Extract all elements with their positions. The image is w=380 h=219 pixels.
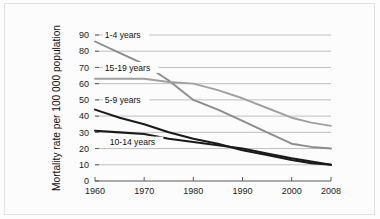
x-tick-label-1990: 1990 [232, 186, 252, 196]
x-tick-label-2008: 2008 [321, 186, 341, 196]
y-tick-label-50: 50 [79, 95, 89, 105]
y-tick-label-20: 20 [79, 144, 89, 154]
chart-figure: 1-4 years15-19 years5-9 years10-14 years… [0, 0, 380, 219]
series-label-5-9-years: 5-9 years [105, 95, 141, 105]
y-tick-label-90: 90 [79, 30, 89, 40]
series-line-10-14-years [95, 131, 331, 165]
y-axis-title: Mortality rate per 100 000 population [51, 25, 62, 191]
series-label-10-14-years: 10-14 years [110, 137, 155, 147]
y-tick-label-80: 80 [79, 46, 89, 56]
series-annotations: 1-4 years15-19 years5-9 years10-14 years [103, 30, 164, 148]
x-tick-label-1980: 1980 [183, 186, 203, 196]
mortality-rate-line-chart: 1-4 years15-19 years5-9 years10-14 years… [0, 0, 380, 219]
y-tick-label-10: 10 [79, 160, 89, 170]
y-tick-label-0: 0 [84, 176, 89, 186]
y-tick-label-60: 60 [79, 79, 89, 89]
x-tick-label-1960: 1960 [85, 186, 105, 196]
x-tick-label-1970: 1970 [134, 186, 154, 196]
series-label-15-19-years: 15-19 years [105, 63, 150, 73]
y-tick-label-30: 30 [79, 128, 89, 138]
x-tick-label-2000: 2000 [282, 186, 302, 196]
y-tick-label-40: 40 [79, 111, 89, 121]
x-tick-labels: 196019701980199020002008 [85, 186, 341, 196]
y-tick-labels: 0102030405060708090 [79, 30, 89, 186]
y-tick-label-70: 70 [79, 63, 89, 73]
series-label-1-4-years: 1-4 years [105, 30, 141, 40]
